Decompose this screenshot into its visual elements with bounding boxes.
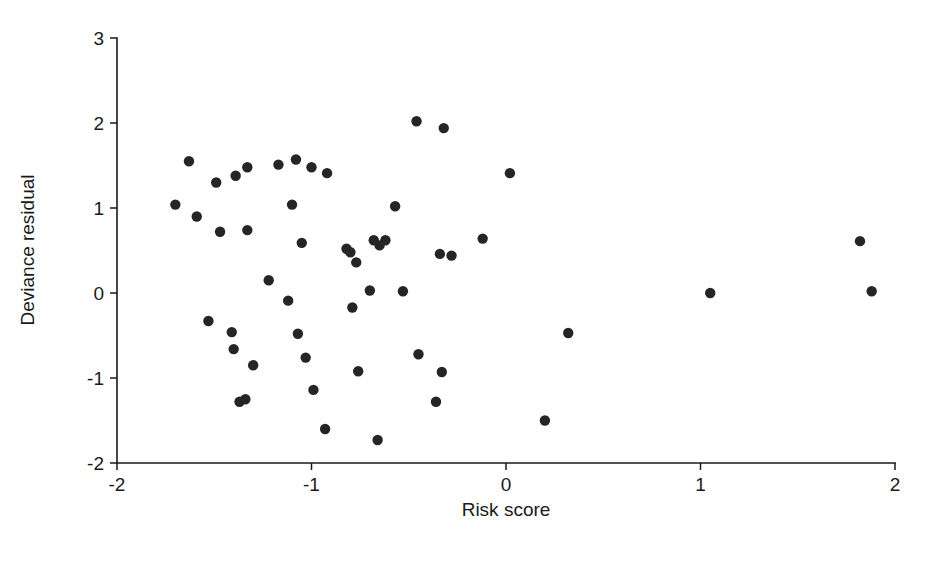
data-point <box>306 162 316 172</box>
y-axis-title: Deviance residual <box>17 174 38 325</box>
data-point <box>866 286 876 296</box>
y-tick-label: 1 <box>93 198 104 219</box>
data-point <box>439 123 449 133</box>
data-point <box>347 302 357 312</box>
data-point <box>411 116 421 126</box>
data-point <box>413 349 423 359</box>
data-point <box>437 367 447 377</box>
data-point <box>192 211 202 221</box>
data-point <box>477 233 487 243</box>
data-point <box>273 159 283 169</box>
data-point <box>293 329 303 339</box>
y-tick-label: 0 <box>93 283 104 304</box>
data-point <box>229 344 239 354</box>
data-point <box>431 397 441 407</box>
data-point <box>264 275 274 285</box>
data-point <box>563 328 573 338</box>
x-tick-label: -2 <box>109 474 126 495</box>
data-point <box>380 235 390 245</box>
data-point <box>351 257 361 267</box>
data-point <box>203 316 213 326</box>
data-point <box>291 154 301 164</box>
x-axis-title: Risk score <box>462 499 551 520</box>
data-point <box>240 394 250 404</box>
data-point <box>540 415 550 425</box>
data-point <box>230 171 240 181</box>
data-point <box>297 238 307 248</box>
data-point <box>248 360 258 370</box>
data-point <box>353 366 363 376</box>
data-point <box>398 286 408 296</box>
y-tick-label: -1 <box>87 368 104 389</box>
plot-canvas: -2-10123 -2-1012 Risk score Deviance res… <box>0 0 946 561</box>
data-point <box>242 162 252 172</box>
data-point <box>705 288 715 298</box>
y-tick-label: -2 <box>87 453 104 474</box>
data-point <box>308 385 318 395</box>
data-point <box>227 327 237 337</box>
x-tick-label: -1 <box>303 474 320 495</box>
data-point <box>390 201 400 211</box>
data-point <box>215 227 225 237</box>
y-axis-ticks: -2-10123 <box>87 28 117 474</box>
data-point <box>435 249 445 259</box>
data-point <box>446 250 456 260</box>
data-point <box>320 424 330 434</box>
data-point <box>365 285 375 295</box>
y-tick-label: 3 <box>93 28 104 49</box>
x-axis-ticks: -2-1012 <box>109 463 901 495</box>
x-tick-label: 0 <box>501 474 512 495</box>
data-point <box>345 247 355 257</box>
x-tick-label: 2 <box>890 474 901 495</box>
data-point <box>211 177 221 187</box>
x-tick-label: 1 <box>695 474 706 495</box>
data-point <box>300 352 310 362</box>
axes-group <box>117 38 895 463</box>
data-point <box>283 295 293 305</box>
data-point <box>170 199 180 209</box>
data-point <box>372 435 382 445</box>
y-tick-label: 2 <box>93 113 104 134</box>
data-point <box>242 225 252 235</box>
data-point <box>855 236 865 246</box>
data-points-layer <box>170 116 877 445</box>
data-point <box>287 199 297 209</box>
data-point <box>505 168 515 178</box>
data-point <box>184 156 194 166</box>
data-point <box>322 168 332 178</box>
scatter-plot-figure: -2-10123 -2-1012 Risk score Deviance res… <box>0 0 946 561</box>
